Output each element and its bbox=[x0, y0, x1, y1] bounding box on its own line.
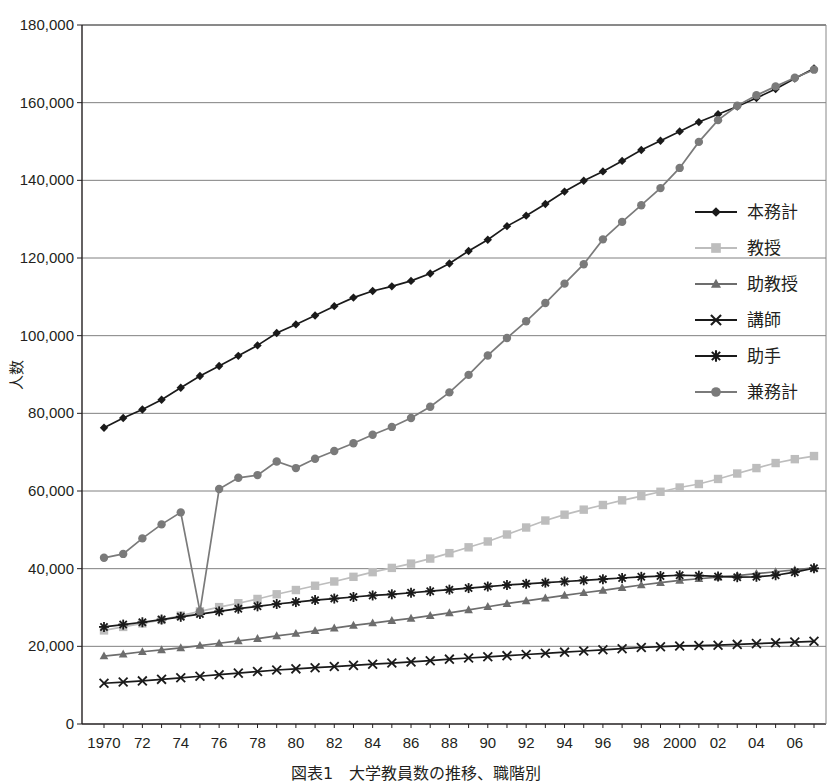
data-point-marker bbox=[368, 590, 378, 600]
line-chart: 020,00040,00060,00080,000100,000120,0001… bbox=[0, 0, 832, 760]
data-point-marker bbox=[675, 127, 683, 135]
y-tick-label: 160,000 bbox=[20, 94, 74, 111]
data-point-marker bbox=[292, 464, 300, 472]
x-tick-label: 84 bbox=[364, 734, 381, 751]
data-point-marker bbox=[617, 573, 627, 583]
legend-item[interactable]: 兼務計 bbox=[695, 382, 798, 402]
data-point-marker bbox=[177, 508, 185, 516]
y-tick-label: 0 bbox=[66, 715, 74, 732]
data-point-marker bbox=[541, 200, 549, 208]
data-point-marker bbox=[445, 549, 453, 557]
data-point-marker bbox=[752, 91, 760, 99]
data-point-marker bbox=[791, 455, 799, 463]
data-point-marker bbox=[464, 583, 474, 593]
legend-item[interactable]: 本務計 bbox=[695, 202, 798, 222]
legend-item[interactable]: 助教授 bbox=[695, 274, 798, 294]
data-point-marker bbox=[711, 387, 721, 397]
chart-legend: 本務計教授助教授講師助手兼務計 bbox=[695, 202, 798, 402]
data-point-marker bbox=[752, 464, 760, 472]
data-point-marker bbox=[714, 116, 722, 124]
data-point-marker bbox=[732, 572, 742, 582]
x-tick-label: 80 bbox=[288, 734, 305, 751]
x-tick-label: 88 bbox=[441, 734, 458, 751]
x-tick-label: 90 bbox=[479, 734, 496, 751]
data-series-layer bbox=[99, 64, 819, 687]
data-point-marker bbox=[157, 520, 165, 528]
data-point-marker bbox=[502, 580, 512, 590]
data-point-marker bbox=[272, 599, 282, 609]
data-point-marker bbox=[540, 578, 550, 588]
x-tick-label: 94 bbox=[556, 734, 573, 751]
legend-item[interactable]: 講師 bbox=[695, 310, 781, 330]
data-point-marker bbox=[464, 371, 472, 379]
data-point-marker bbox=[349, 573, 357, 581]
data-point-marker bbox=[425, 586, 435, 596]
data-point-marker bbox=[138, 534, 146, 542]
legend-item-label: 助手 bbox=[747, 346, 781, 366]
x-tick-label: 2000 bbox=[663, 734, 696, 751]
data-point-marker bbox=[445, 259, 453, 267]
data-point-marker bbox=[348, 592, 358, 602]
y-tick-label: 100,000 bbox=[20, 327, 74, 344]
data-point-marker bbox=[234, 352, 242, 360]
data-point-marker bbox=[599, 235, 607, 243]
legend-item[interactable]: 助手 bbox=[695, 346, 781, 366]
data-point-marker bbox=[656, 488, 664, 496]
data-point-marker bbox=[118, 620, 128, 630]
figure-caption: 図表1 大学教員数の推移、職階別 bbox=[0, 764, 832, 784]
data-point-marker bbox=[292, 586, 300, 594]
data-point-marker bbox=[176, 612, 186, 622]
x-tick-label: 86 bbox=[403, 734, 420, 751]
data-point-marker bbox=[580, 260, 588, 268]
data-point-marker bbox=[675, 164, 683, 172]
data-point-marker bbox=[119, 414, 127, 422]
x-tick-label: 72 bbox=[134, 734, 151, 751]
data-point-marker bbox=[99, 622, 109, 632]
data-point-marker bbox=[464, 543, 472, 551]
data-point-marker bbox=[388, 423, 396, 431]
data-point-marker bbox=[234, 474, 242, 482]
data-point-marker bbox=[330, 447, 338, 455]
data-point-marker bbox=[636, 572, 646, 582]
data-point-marker bbox=[311, 455, 319, 463]
data-series bbox=[100, 452, 818, 635]
data-point-marker bbox=[311, 582, 319, 590]
legend-item-label: 兼務計 bbox=[747, 382, 798, 402]
data-point-marker bbox=[599, 501, 607, 509]
x-tick-label: 04 bbox=[748, 734, 765, 751]
data-point-marker bbox=[713, 571, 723, 581]
data-point-marker bbox=[579, 575, 589, 585]
data-point-marker bbox=[694, 571, 704, 581]
y-axis-ticks: 020,00040,00060,00080,000100,000120,0001… bbox=[20, 16, 82, 732]
data-point-marker bbox=[407, 414, 415, 422]
x-tick-label: 92 bbox=[518, 734, 535, 751]
data-point-marker bbox=[368, 430, 376, 438]
data-point-marker bbox=[311, 311, 319, 319]
x-axis-ticks: 1970727476788082848688909294969820000204… bbox=[87, 724, 814, 751]
data-point-marker bbox=[196, 607, 204, 615]
data-point-marker bbox=[751, 572, 761, 582]
data-point-marker bbox=[560, 187, 568, 195]
data-point-marker bbox=[368, 287, 376, 295]
data-point-marker bbox=[253, 601, 263, 611]
data-point-marker bbox=[580, 505, 588, 513]
data-point-marker bbox=[503, 334, 511, 342]
data-point-marker bbox=[733, 469, 741, 477]
data-point-marker bbox=[503, 530, 511, 538]
legend-item[interactable]: 教授 bbox=[695, 238, 781, 258]
y-tick-label: 40,000 bbox=[28, 560, 74, 577]
data-point-marker bbox=[349, 439, 357, 447]
data-point-marker bbox=[560, 510, 568, 518]
data-point-marker bbox=[406, 588, 416, 598]
data-point-marker bbox=[771, 459, 779, 467]
data-point-marker bbox=[522, 211, 530, 219]
data-point-marker bbox=[177, 384, 185, 392]
data-point-marker bbox=[541, 516, 549, 524]
data-point-marker bbox=[464, 247, 472, 255]
data-point-marker bbox=[810, 65, 818, 73]
data-point-marker bbox=[618, 157, 626, 165]
data-point-marker bbox=[560, 576, 570, 586]
data-point-marker bbox=[656, 184, 664, 192]
data-series bbox=[99, 563, 819, 632]
data-point-marker bbox=[637, 201, 645, 209]
